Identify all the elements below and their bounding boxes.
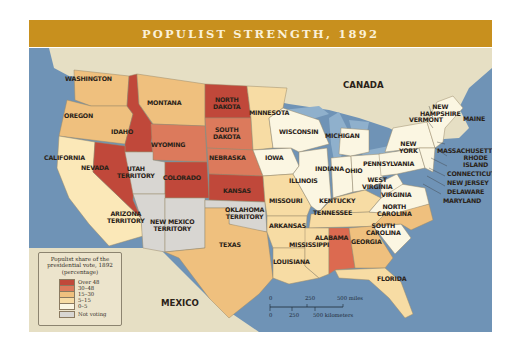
- label-wisconsin: WISCONSIN: [279, 128, 318, 135]
- label-alabama: ALABAMA: [315, 234, 348, 241]
- label-utah: UTAHTERRITORY: [117, 165, 155, 179]
- label-louisiana: LOUISIANA: [273, 258, 310, 265]
- label-delaware: DELAWARE: [447, 188, 484, 195]
- legend-title: Populist share of the presidential vote,…: [39, 256, 121, 275]
- label-mississippi: MISSISSIPPI: [289, 241, 329, 248]
- label-california: CALIFORNIA: [44, 154, 85, 161]
- label-new-hampshire: NEWHAMPSHIRE: [420, 103, 461, 117]
- scale-bar: 0 250 500 miles 0 250 500 kilometers: [269, 295, 369, 325]
- label-south-carolina: SOUTHCAROLINA: [366, 222, 401, 236]
- label-vermont: VERMONT: [409, 116, 443, 123]
- map-area: CANADA MEXICO WASHINGTON OREGON CALIFORN…: [29, 48, 492, 332]
- label-rhode-island: RHODEISLAND: [463, 154, 488, 168]
- label-missouri: MISSOURI: [269, 197, 302, 204]
- label-new-jersey: NEW JERSEY: [447, 179, 489, 186]
- label-kansas: KANSAS: [223, 187, 251, 194]
- legend-item-0-5: 0–5: [59, 303, 87, 310]
- label-florida: FLORIDA: [377, 275, 406, 282]
- legend-item-not-voting: Not voting: [59, 311, 106, 318]
- label-arizona: ARIZONATERRITORY: [107, 210, 145, 224]
- label-indiana: INDIANA: [315, 165, 344, 172]
- label-georgia: GEORGIA: [351, 238, 382, 245]
- label-new-mexico: NEW MEXICOTERRITORY: [150, 218, 194, 232]
- label-north-dakota: NORTHDAKOTA: [213, 96, 241, 110]
- label-virginia: VIRGINIA: [381, 191, 411, 198]
- label-montana: MONTANA: [147, 99, 181, 106]
- swatch-0-5: [59, 303, 75, 310]
- label-michigan: MICHIGAN: [325, 132, 360, 139]
- map-figure: POPULIST STRENGTH, 1892: [29, 20, 492, 332]
- label-illinois: ILLINOIS: [289, 177, 318, 184]
- title-bar: POPULIST STRENGTH, 1892: [29, 20, 492, 47]
- label-south-dakota: SOUTHDAKOTA: [213, 126, 241, 140]
- label-idaho: IDAHO: [111, 128, 133, 135]
- label-washington: WASHINGTON: [65, 75, 112, 82]
- label-mexico: MEXICO: [161, 299, 199, 308]
- legend: Populist share of the presidential vote,…: [38, 252, 122, 326]
- label-oklahoma: OKLAHOMATERRITORY: [225, 206, 264, 220]
- label-maine: MAINE: [463, 115, 485, 122]
- label-canada: CANADA: [343, 81, 384, 90]
- label-north-carolina: NORTHCAROLINA: [377, 203, 412, 217]
- label-minnesota: MINNESOTA: [249, 109, 289, 116]
- label-nevada: NEVADA: [81, 164, 109, 171]
- map-title: POPULIST STRENGTH, 1892: [142, 27, 379, 41]
- label-west-virginia: WESTVIRGINIA: [362, 176, 392, 190]
- label-arkansas: ARKANSAS: [269, 222, 306, 229]
- label-new-york: NEWYORK: [399, 140, 418, 154]
- label-kentucky: KENTUCKY: [319, 197, 355, 204]
- label-nebraska: NEBRASKA: [209, 154, 246, 161]
- label-connecticut: CONNECTICUT: [447, 170, 492, 177]
- label-massachusetts: MASSACHUSETTS: [437, 147, 492, 154]
- label-maryland: MARYLAND: [443, 197, 481, 204]
- label-tennessee: TENNESSEE: [313, 209, 352, 216]
- label-colorado: COLORADO: [163, 174, 201, 181]
- label-iowa: IOWA: [265, 154, 283, 161]
- label-ohio: OHIO: [345, 167, 363, 174]
- label-wyoming: WYOMING: [151, 141, 185, 148]
- label-pennsylvania: PENNSYLVANIA: [363, 160, 414, 167]
- label-texas: TEXAS: [219, 241, 241, 248]
- swatch-not-voting: [59, 311, 75, 318]
- label-oregon: OREGON: [64, 112, 93, 119]
